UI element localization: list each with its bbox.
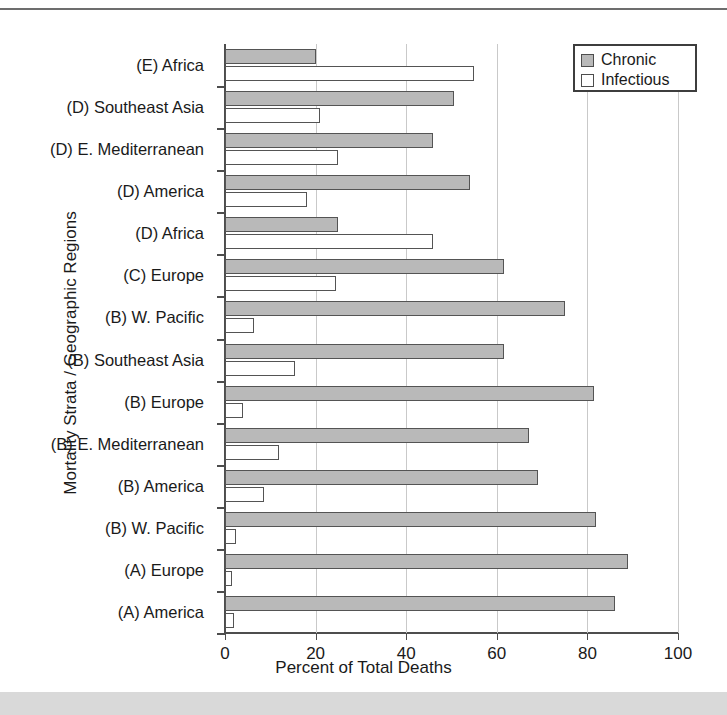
y-axis-tick: [217, 549, 225, 551]
y-axis-category-label: (B) Europe: [0, 393, 216, 411]
x-axis-tick: [678, 633, 679, 640]
bar-infectious: [225, 445, 279, 460]
bar-infectious: [225, 276, 336, 291]
legend-box: Chronic Infectious: [573, 44, 697, 92]
gridline: [678, 44, 679, 633]
bar-infectious: [225, 571, 232, 586]
x-axis-title: Percent of Total Deaths: [0, 658, 727, 678]
bar-infectious: [225, 234, 433, 249]
bar-infectious: [225, 66, 474, 81]
y-axis-tick: [217, 128, 225, 130]
bar-chronic: [225, 344, 504, 359]
bar-chronic: [225, 133, 433, 148]
y-axis-tick: [217, 296, 225, 298]
y-axis-category-label: (D) E. Mediterranean: [0, 140, 216, 158]
bar-chronic: [225, 301, 565, 316]
bar-chronic: [225, 49, 316, 64]
y-axis-category-label: (B) E. Mediterranean: [0, 435, 216, 453]
legend-label-infectious: Infectious: [601, 71, 669, 89]
gridline: [587, 44, 588, 633]
x-axis-tick: [316, 633, 317, 640]
x-axis-tick: [406, 633, 407, 640]
bar-infectious: [225, 361, 295, 376]
y-axis-category-label: (A) America: [0, 603, 216, 621]
y-axis-category-label: (B) W. Pacific: [0, 308, 216, 326]
y-axis-category-label: (A) Europe: [0, 561, 216, 579]
legend-label-chronic: Chronic: [601, 51, 656, 69]
legend-item-chronic: Chronic: [581, 50, 689, 70]
bar-infectious: [225, 108, 320, 123]
y-axis-tick: [217, 381, 225, 383]
y-axis-tick: [217, 339, 225, 341]
bar-infectious: [225, 487, 264, 502]
legend-item-infectious: Infectious: [581, 70, 689, 90]
y-axis-tick: [217, 507, 225, 509]
y-axis-category-label: (B) Southeast Asia: [0, 351, 216, 369]
gridline: [497, 44, 498, 633]
y-axis-category-labels: (E) Africa(D) Southeast Asia(D) E. Medit…: [0, 44, 216, 633]
bar-chronic: [225, 386, 594, 401]
y-axis-tick: [217, 591, 225, 593]
bar-infectious: [225, 318, 254, 333]
y-axis-category-label: (B) America: [0, 477, 216, 495]
y-axis-tick: [217, 212, 225, 214]
plot-area: 020406080100: [225, 44, 678, 633]
bar-infectious: [225, 529, 236, 544]
x-axis-tick: [497, 633, 498, 640]
top-divider-rule: [0, 8, 727, 10]
y-axis-category-label: (D) Southeast Asia: [0, 98, 216, 116]
y-axis-category-label: (D) Africa: [0, 224, 216, 242]
x-axis-tick: [587, 633, 588, 640]
bar-infectious: [225, 403, 243, 418]
legend-swatch-infectious-icon: [581, 74, 594, 87]
legend-swatch-chronic-icon: [581, 54, 594, 67]
bottom-strip: [0, 692, 727, 715]
y-axis-category-label: (C) Europe: [0, 266, 216, 284]
bar-chronic: [225, 512, 596, 527]
x-axis-line: [224, 632, 679, 634]
bar-chronic: [225, 259, 504, 274]
bar-infectious: [225, 150, 338, 165]
bar-infectious: [225, 613, 234, 628]
bar-chronic: [225, 428, 529, 443]
y-axis-tick: [217, 170, 225, 172]
y-axis-tick: [217, 465, 225, 467]
bar-infectious: [225, 192, 307, 207]
y-axis-tick: [217, 254, 225, 256]
bar-chronic: [225, 91, 454, 106]
figure-panel: Mortality Strata / Geographic Regions (E…: [0, 0, 727, 715]
bar-chronic: [225, 175, 470, 190]
y-axis-category-label: (D) America: [0, 182, 216, 200]
y-axis-tick: [217, 86, 225, 88]
bar-chronic: [225, 470, 538, 485]
bar-chronic: [225, 217, 338, 232]
x-axis-tick: [225, 633, 226, 640]
bar-chronic: [225, 554, 628, 569]
bar-chronic: [225, 596, 615, 611]
y-axis-category-label: (B) W. Pacific: [0, 519, 216, 537]
y-axis-tick: [217, 633, 225, 635]
y-axis-tick: [217, 423, 225, 425]
y-axis-category-label: (E) Africa: [0, 56, 216, 74]
